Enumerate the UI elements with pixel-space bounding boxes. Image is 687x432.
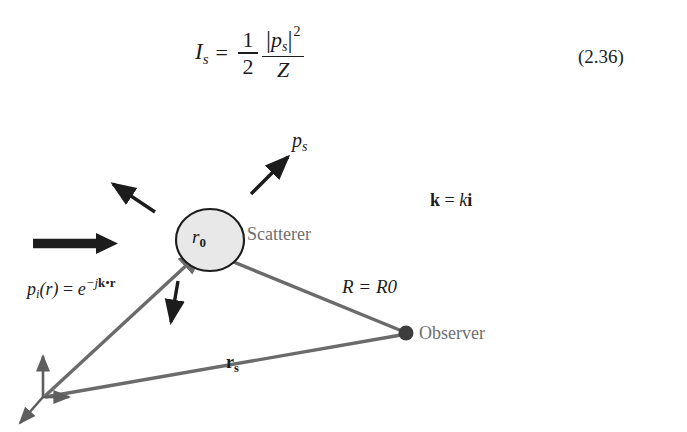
scattered-arrow-ps <box>251 157 288 194</box>
coordinate-axes <box>20 356 69 423</box>
label-position-vector: rs <box>226 352 239 376</box>
scattered-arrow-down <box>171 281 178 322</box>
label-wavevector: k = ki <box>430 190 472 211</box>
vector-origin-to-observer <box>45 335 401 397</box>
label-observer: Observer <box>419 323 485 344</box>
axis-diagonal <box>20 397 43 423</box>
figure-page: Is = 1 2 |ps|2 Z (2.36) <box>0 0 687 432</box>
diagram-svg <box>0 0 687 432</box>
scattering-geometry-diagram: ps r0 Scatterer k = ki pi(r) = e−jk•r R … <box>0 0 687 432</box>
label-scatterer-radius: r0 <box>192 226 206 251</box>
label-scattered-pressure: ps <box>292 129 307 155</box>
label-scatterer: Scatterer <box>247 224 311 245</box>
observer-dot <box>399 326 414 341</box>
scatterer-ellipse <box>176 209 244 271</box>
label-incident-pressure: pi(r) = e−jk•r <box>27 275 116 302</box>
scattered-arrow-upleft <box>113 184 155 212</box>
incident-wave-arrow <box>33 233 118 254</box>
label-range: R = R0 <box>342 276 397 298</box>
